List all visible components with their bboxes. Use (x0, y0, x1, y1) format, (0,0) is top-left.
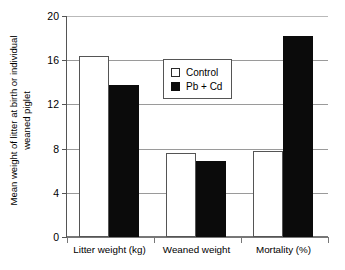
legend-item-treated: Pb + Cd (171, 79, 222, 93)
y-tick-label-12: 12 (47, 98, 59, 110)
x-axis-category-label-2: Weaned weight (163, 244, 230, 255)
bar-treated-2 (196, 161, 226, 237)
y-tick-4 (62, 193, 67, 194)
y-tick-label-4: 4 (53, 187, 59, 199)
y-axis-title: Mean weight of litter at birth or indivi… (0, 0, 40, 240)
legend-label-control: Control (186, 67, 218, 78)
y-tick-16 (62, 60, 67, 61)
y-tick-8 (62, 149, 67, 150)
legend-swatch-filled-square-icon (171, 82, 180, 91)
y-tick-20 (62, 16, 67, 17)
y-tick-label-20: 20 (47, 10, 59, 22)
y-tick-label-16: 16 (47, 54, 59, 66)
legend-swatch-open-square-icon (171, 68, 180, 77)
bar-chart-figure: Mean weight of litter at birth or indivi… (0, 0, 345, 270)
bar-control-2 (166, 153, 196, 237)
bar-treated-1 (109, 85, 139, 237)
x-axis-category-labels: Litter weight (kg)Weaned weightMortality… (66, 244, 328, 262)
bar-treated-3 (283, 36, 313, 237)
x-axis-separator-2 (241, 237, 242, 243)
y-tick-12 (62, 104, 67, 105)
gridline-20 (67, 16, 328, 17)
legend-item-control: Control (171, 65, 222, 79)
legend: Control Pb + Cd (163, 59, 232, 99)
x-axis-category-label-3: Mortality (%) (256, 244, 311, 255)
bar-control-3 (253, 151, 283, 237)
x-axis-separator-0 (67, 237, 68, 243)
y-tick-label-8: 8 (53, 143, 59, 155)
plot-area: 048121620 (66, 16, 328, 237)
legend-label-treated: Pb + Cd (186, 81, 222, 92)
gridline-0 (67, 237, 328, 238)
x-axis-separator-1 (154, 237, 155, 243)
y-axis-title-line-1: Mean weight of litter at birth or indivi… (8, 35, 19, 205)
y-tick-label-0: 0 (53, 231, 59, 243)
y-axis-title-line-2: weaned piglet (20, 35, 33, 205)
x-axis-separator-3 (328, 237, 329, 243)
x-axis-category-label-1: Litter weight (kg) (73, 244, 145, 255)
bar-control-1 (79, 56, 109, 237)
